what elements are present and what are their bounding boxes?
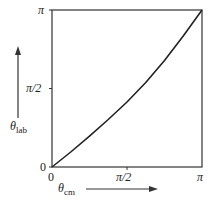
chart-canvas — [0, 0, 210, 202]
x-axis-subscript: cm — [64, 187, 75, 197]
x-axis-label: θcm — [58, 182, 75, 195]
y-arrow-head-icon — [15, 46, 21, 55]
x-tick-label-pi-half: π/2 — [116, 171, 131, 183]
data-curve — [52, 10, 202, 167]
y-tick-label-pi: π — [38, 4, 44, 16]
x-tick-label-pi: π — [197, 171, 203, 183]
x-tick-label-zero: 0 — [48, 171, 54, 183]
x-arrow-head-icon — [149, 186, 158, 192]
y-tick-label-pi-half: π/2 — [26, 82, 41, 94]
plot-frame — [52, 10, 202, 167]
y-axis-label: θlab — [10, 120, 27, 133]
y-tick-label-zero: 0 — [40, 161, 46, 173]
y-axis-subscript: lab — [16, 125, 27, 135]
